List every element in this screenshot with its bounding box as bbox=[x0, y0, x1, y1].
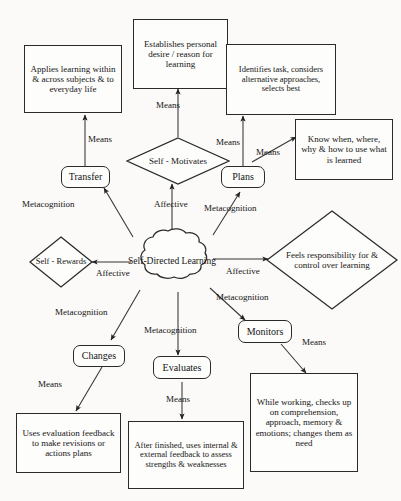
node-monitors-label: Monitors bbox=[247, 326, 284, 337]
node-establishes-desire-label: Establishes personal desire / reason for… bbox=[137, 39, 224, 69]
edge-label-means-monitors-while: Means bbox=[302, 337, 326, 347]
node-after-finished[interactable]: After finished, uses internal & external… bbox=[128, 421, 244, 489]
node-uses-evaluation-feedback[interactable]: Uses evaluation feedback to make revisio… bbox=[16, 413, 121, 473]
node-plans[interactable]: Plans bbox=[221, 166, 265, 188]
node-evaluates[interactable]: Evaluates bbox=[153, 356, 211, 379]
edge-label-means-plans-knowwhen: Means bbox=[256, 147, 280, 157]
edge-label-metacognition-transfer: Metacognition bbox=[22, 199, 75, 209]
node-while-working-label: While working, checks up on comprehensio… bbox=[254, 397, 354, 447]
edge-cloud-changes bbox=[111, 290, 140, 340]
edge-monitors-while bbox=[281, 344, 306, 373]
edge-label-means-evaluates-after: Means bbox=[166, 394, 190, 404]
node-self-motivates-label: Self - Motivates bbox=[145, 156, 211, 166]
node-transfer-label: Transfer bbox=[69, 171, 103, 182]
edge-label-affective-feels: Affective bbox=[226, 266, 260, 276]
node-changes[interactable]: Changes bbox=[73, 345, 125, 367]
node-monitors[interactable]: Monitors bbox=[238, 320, 292, 343]
edge-label-means-motivates-establishes: Means bbox=[156, 100, 180, 110]
node-self-rewards[interactable]: Self - Rewards bbox=[29, 236, 93, 288]
node-self-directed-learning-label: Self-Directed Learning bbox=[128, 256, 216, 266]
edge-label-means-plans-identifies: Means bbox=[216, 137, 240, 147]
edge-label-metacognition-plans: Metacognition bbox=[204, 203, 257, 213]
edge-label-affective-rewards: Affective bbox=[96, 268, 130, 278]
node-self-rewards-label: Self - Rewards bbox=[32, 257, 91, 267]
node-know-when[interactable]: Know when, where, why & how to use what … bbox=[295, 119, 393, 180]
node-establishes-desire[interactable]: Establishes personal desire / reason for… bbox=[133, 19, 228, 89]
node-identifies-task-label: Identifies task, considers alternative a… bbox=[230, 65, 332, 94]
node-applies-learning-label: Applies learning within & across subject… bbox=[28, 64, 118, 94]
edge-label-affective-motivates: Affective bbox=[154, 199, 188, 209]
concept-map-canvas: Applies learning within & across subject… bbox=[0, 0, 401, 501]
node-feels-responsibility[interactable]: Feels responsibility for & control over … bbox=[266, 210, 398, 310]
node-while-working[interactable]: While working, checks up on comprehensio… bbox=[250, 373, 358, 472]
edge-label-means-transfer-applies: Means bbox=[88, 134, 112, 144]
node-identifies-task[interactable]: Identifies task, considers alternative a… bbox=[226, 44, 336, 115]
node-self-directed-learning[interactable]: Self-Directed Learning bbox=[127, 226, 217, 296]
edge-changes-uses bbox=[76, 367, 102, 411]
edge-label-metacognition-monitors: Metacognition bbox=[216, 292, 269, 302]
node-know-when-label: Know when, where, why & how to use what … bbox=[299, 134, 389, 164]
node-evaluates-label: Evaluates bbox=[163, 362, 202, 373]
node-plans-label: Plans bbox=[232, 171, 254, 182]
node-feels-responsibility-label: Feels responsibility for & control over … bbox=[281, 250, 383, 270]
edge-label-means-changes-uses: Means bbox=[38, 379, 62, 389]
edge-label-metacognition-evaluates: Metacognition bbox=[144, 325, 197, 335]
node-self-motivates[interactable]: Self - Motivates bbox=[126, 137, 230, 185]
edge-label-metacognition-changes: Metacognition bbox=[55, 307, 108, 317]
node-after-finished-label: After finished, uses internal & external… bbox=[132, 441, 240, 470]
edge-cloud-plans bbox=[213, 192, 240, 235]
node-changes-label: Changes bbox=[82, 350, 116, 361]
node-transfer[interactable]: Transfer bbox=[61, 166, 110, 188]
node-uses-evaluation-feedback-label: Uses evaluation feedback to make revisio… bbox=[20, 428, 117, 458]
node-applies-learning[interactable]: Applies learning within & across subject… bbox=[24, 45, 122, 113]
